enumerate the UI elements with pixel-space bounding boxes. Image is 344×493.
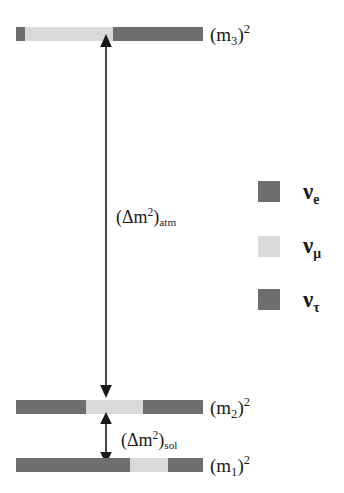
bar-segment-nu-tau <box>168 458 203 472</box>
label-m3-main: (m <box>210 24 231 45</box>
atm-sub: atm <box>159 216 176 228</box>
label-m2-sup: 2 <box>244 395 250 409</box>
bar-segment-nu-e <box>16 27 25 41</box>
legend-label-nu-mu: νμ <box>303 234 321 260</box>
atm-splitting-arrow <box>95 34 117 398</box>
label-m1-main: (m <box>210 455 231 476</box>
neutrino-mass-hierarchy-diagram: (m3)2 (Δm2)atm νe νμ ντ (m2)2 (Δm2)sol <box>0 0 344 493</box>
legend-swatch-nu-e <box>258 181 280 202</box>
sol-sub: sol <box>164 439 177 451</box>
legend-nu-mu-sub: μ <box>313 246 321 261</box>
legend-nu-tau-sub: τ <box>313 300 319 315</box>
legend-nu-mu-symbol: ν <box>303 233 313 258</box>
bar-segment-nu-tau <box>113 27 203 41</box>
mass-level-label-m1: (m1)2 <box>210 454 250 478</box>
legend-nu-e-symbol: ν <box>303 179 313 204</box>
bar-segment-nu-e <box>16 400 86 414</box>
mass-level-bar-m1 <box>16 458 203 472</box>
sol-splitting-label: (Δm2)sol <box>121 430 177 451</box>
legend-nu-tau-symbol: ν <box>303 287 313 312</box>
legend-swatch-nu-mu <box>258 236 280 257</box>
legend-nu-e-sub: e <box>313 192 319 207</box>
sol-splitting-arrow <box>95 412 117 464</box>
sol-delta-m: Δm <box>127 430 153 450</box>
bar-segment-nu-mu <box>130 458 168 472</box>
bar-segment-nu-e <box>16 458 130 472</box>
legend-swatch-nu-tau <box>258 289 280 310</box>
atm-delta-m: Δm <box>122 207 148 227</box>
label-m3-sup: 2 <box>244 22 250 36</box>
legend-label-nu-e: νe <box>303 180 319 206</box>
mass-level-label-m2: (m2)2 <box>210 396 250 420</box>
label-m1-sup: 2 <box>244 453 250 467</box>
mass-level-label-m3: (m3)2 <box>210 23 250 47</box>
label-m2-main: (m <box>210 397 231 418</box>
legend-label-nu-tau: ντ <box>303 288 320 314</box>
bar-segment-nu-tau <box>143 400 203 414</box>
atm-splitting-label: (Δm2)atm <box>116 207 176 228</box>
